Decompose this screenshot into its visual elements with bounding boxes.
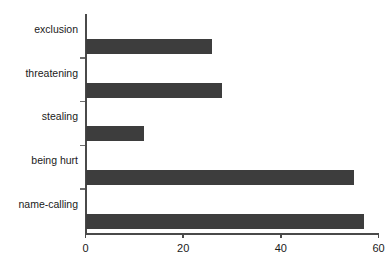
category-label: threatening (25, 67, 78, 79)
x-tick-label: 0 (66, 242, 106, 255)
bar (86, 83, 223, 98)
bar (86, 126, 145, 141)
category-label: name-calling (18, 198, 78, 210)
x-tick (280, 233, 282, 238)
bar-chart: 0204060 name-callingbeing hurtstealingth… (0, 0, 392, 270)
category-label: being hurt (31, 154, 78, 166)
x-tick-label: 20 (163, 242, 203, 255)
bar (86, 214, 364, 229)
x-axis-line (85, 233, 379, 235)
y-tick (80, 57, 85, 59)
category-label: stealing (42, 110, 78, 122)
category-label: exclusion (34, 23, 78, 35)
x-tick (378, 233, 380, 238)
y-tick (80, 145, 85, 147)
x-tick-label: 60 (359, 242, 392, 255)
bar (86, 170, 355, 185)
y-tick (80, 101, 85, 103)
x-tick (85, 233, 87, 238)
bar (86, 39, 213, 54)
x-tick (182, 233, 184, 238)
x-tick-label: 40 (261, 242, 301, 255)
y-tick (80, 188, 85, 190)
